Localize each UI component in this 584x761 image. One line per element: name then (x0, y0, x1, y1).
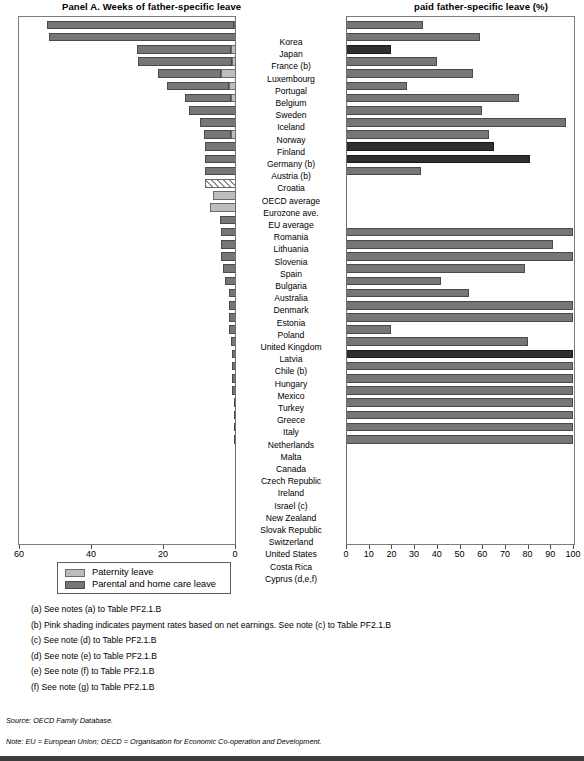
left-bar-row (19, 251, 236, 263)
bar-parental-leave (167, 82, 229, 91)
bar-paid-rate (346, 423, 573, 432)
left-bar-row (19, 43, 236, 55)
right-bar-row (346, 287, 574, 299)
footnote: (f) See note (g) to Table PF2.1.B (31, 680, 571, 696)
left-bar-row (19, 372, 236, 384)
left-bar-row (19, 263, 236, 275)
right-bar-row (346, 433, 574, 445)
right-bar-row (346, 409, 574, 421)
country-label: Israel (c) (236, 500, 346, 512)
left-bar-row (19, 299, 236, 311)
bar-parental-leave (138, 57, 232, 66)
country-label: Australia (236, 292, 346, 304)
bar-paid-rate (346, 398, 573, 407)
country-label: Italy (236, 426, 346, 438)
right-bar-rows (346, 19, 574, 567)
right-bar-row (346, 202, 574, 214)
right-bar-row (346, 312, 574, 324)
bar-paid-rate (346, 82, 407, 91)
country-label: Czech Republic (236, 475, 346, 487)
right-bar-row (346, 104, 574, 116)
bar-paid-rate (346, 142, 494, 151)
bar-paid-rate (346, 106, 482, 115)
bar-paid-rate (346, 264, 525, 273)
bar-parental-leave (205, 155, 236, 164)
left-bar-row (19, 31, 236, 43)
left-bar-row (19, 385, 236, 397)
right-bar-row (346, 251, 574, 263)
country-label: Cyprus (d,e,f) (236, 573, 346, 585)
bar-paid-rate (346, 289, 469, 298)
left-plot-frame (18, 16, 236, 545)
legend-swatch-paternity (65, 569, 85, 577)
left-bar-row (19, 446, 236, 458)
axis-tick-label: 40 (76, 549, 106, 559)
right-bar-row (346, 92, 574, 104)
bar-paid-rate (346, 167, 421, 176)
right-bar-row (346, 165, 574, 177)
bar-paid-rate (346, 155, 530, 164)
country-label: Ireland (236, 487, 346, 499)
bar-parental-leave (221, 228, 236, 237)
footnotes: (a) See notes (a) to Table PF2.1.B(b) Pi… (31, 602, 571, 696)
left-bar-row (19, 117, 236, 129)
left-bar-row (19, 531, 236, 543)
left-bar-row (19, 507, 236, 519)
left-bar-row (19, 519, 236, 531)
right-bar-row (346, 214, 574, 226)
left-bar-row (19, 360, 236, 372)
country-label: Germany (b) (236, 158, 346, 170)
bar-parental-leave (158, 69, 220, 78)
country-label: Poland (236, 329, 346, 341)
country-label: Estonia (236, 317, 346, 329)
footnote: (d) See note (e) to Table PF2.1.B (31, 649, 571, 665)
right-bar-row (346, 238, 574, 250)
bar-parental-leave (189, 106, 236, 115)
right-bar-row (346, 324, 574, 336)
bar-paid-rate (346, 130, 489, 139)
country-label: United Kingdom (236, 341, 346, 353)
right-x-axis: 0102030405060708090100 (346, 545, 574, 567)
right-bar-row (346, 19, 574, 31)
left-bar-row (19, 19, 236, 31)
country-label-column: KoreaJapanFrance (b)LuxembourgPortugalBe… (236, 34, 346, 561)
right-bar-row (346, 56, 574, 68)
country-label: Portugal (236, 85, 346, 97)
left-bar-row (19, 482, 236, 494)
right-bar-row (346, 31, 574, 43)
country-label: Eurozone ave. (236, 207, 346, 219)
bar-parental-leave (221, 240, 236, 249)
bar-paid-rate (346, 350, 573, 359)
legend-swatch-parental (65, 581, 85, 589)
axis-tick-label: 20 (148, 549, 178, 559)
country-label: Chile (b) (236, 365, 346, 377)
note-line: Note: EU = European Union; OECD = Organi… (6, 737, 322, 746)
left-bar-row (19, 421, 236, 433)
bar-paid-rate (346, 33, 480, 42)
right-bar-row (346, 68, 574, 80)
right-bar-row (346, 336, 574, 348)
country-label: Netherlands (236, 439, 346, 451)
right-bar-row (346, 43, 574, 55)
left-bar-row (19, 56, 236, 68)
bar-paid-rate (346, 45, 391, 54)
left-bar-row (19, 470, 236, 482)
bar-paid-rate (346, 228, 573, 237)
legend-label: Paternity leave (92, 567, 154, 578)
bar-paid-rate (346, 313, 573, 322)
bar-paid-rate (346, 118, 566, 127)
country-label: Lithuania (236, 243, 346, 255)
axis-tick-label: 60 (4, 549, 34, 559)
axis-tick-label: 0 (220, 549, 250, 559)
bar-paid-rate (346, 337, 528, 346)
left-bar-row (19, 312, 236, 324)
left-bar-row (19, 68, 236, 80)
right-plot-frame (346, 16, 575, 545)
left-bar-row (19, 104, 236, 116)
panel-b-title: paid father-specific leave (%) (414, 1, 548, 12)
right-bar-row (346, 117, 574, 129)
bar-parental-leave (205, 167, 236, 176)
country-label: Bulgaria (236, 280, 346, 292)
right-bar-row (346, 129, 574, 141)
panel-a-title: Panel A. Weeks of father-specific leave (62, 1, 241, 12)
